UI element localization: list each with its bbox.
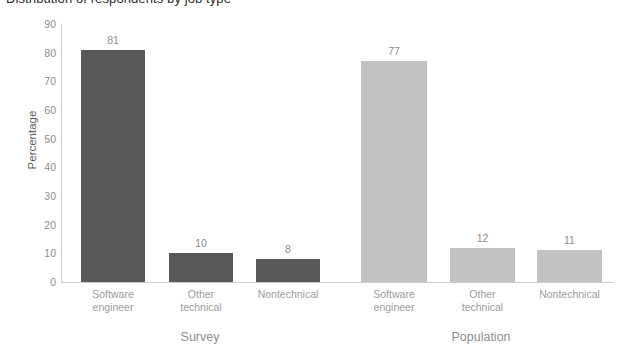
bar	[361, 61, 427, 282]
x-axis-category-label: Other technical	[159, 288, 243, 313]
bar	[81, 50, 145, 282]
bar	[256, 259, 320, 282]
group-label: Population	[411, 330, 551, 344]
bar-value-label: 81	[81, 35, 145, 46]
bar-value-label: 10	[169, 238, 233, 249]
bar-chart: Distribution of respondents by job type …	[0, 0, 619, 352]
plot-area: 81Software engineer10Other technical8Non…	[0, 0, 619, 352]
group-label: Survey	[130, 330, 270, 344]
x-axis-category-label: Software engineer	[71, 288, 155, 313]
x-axis-category-label: Software engineer	[351, 288, 437, 313]
x-axis-category-label: Other technical	[440, 288, 525, 313]
bar-value-label: 8	[256, 244, 320, 255]
bar-value-label: 12	[450, 233, 515, 244]
bar	[450, 248, 515, 282]
x-axis-category-label: Nontechnical	[246, 288, 330, 301]
bar	[169, 253, 233, 282]
x-axis-category-label: Nontechnical	[527, 288, 612, 301]
bar-value-label: 11	[537, 235, 602, 246]
bar	[537, 250, 602, 282]
bar-value-label: 77	[361, 46, 427, 57]
